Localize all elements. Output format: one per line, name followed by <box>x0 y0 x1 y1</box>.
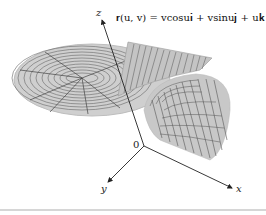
helicoid-figure: z y x 0 𝐫(u, v) = vcosu𝐢 + vsinu𝐣 + u𝐤 <box>0 0 266 215</box>
divider <box>0 209 266 211</box>
origin-label: 0 <box>133 140 139 150</box>
y-axis-label: y <box>101 184 107 194</box>
z-axis-label: z <box>96 8 101 18</box>
equation: 𝐫(u, v) = vcosu𝐢 + vsinu𝐣 + u𝐤 <box>116 12 265 24</box>
x-axis <box>144 146 232 188</box>
y-axis <box>108 146 144 182</box>
helicoid-diagram <box>0 0 266 215</box>
x-axis-label: x <box>236 184 242 194</box>
